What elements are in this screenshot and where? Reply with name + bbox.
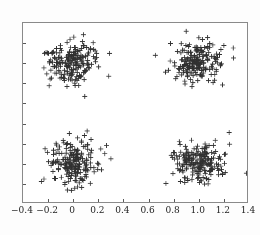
x-tick-label: 0.2 bbox=[90, 206, 104, 215]
x-tick-mark bbox=[98, 199, 99, 202]
x-tick-label: 1.4 bbox=[241, 206, 255, 215]
x-tick-label: 0.6 bbox=[140, 206, 154, 215]
x-tick-mark bbox=[174, 199, 175, 202]
x-tick-label: 1.0 bbox=[191, 206, 205, 215]
y-tick-mark bbox=[23, 164, 26, 165]
y-tick-mark bbox=[23, 124, 26, 125]
plot-frame bbox=[22, 22, 248, 203]
x-tick-label: −0.2 bbox=[36, 206, 58, 215]
y-tick-mark bbox=[23, 63, 26, 64]
x-tick-label: 0 bbox=[69, 206, 75, 215]
y-tick-mark bbox=[23, 43, 26, 44]
scatter-points-canvas bbox=[23, 23, 247, 202]
x-tick-mark bbox=[224, 199, 225, 202]
y-tick-mark bbox=[23, 144, 26, 145]
x-tick-label: −0.4 bbox=[11, 206, 33, 215]
x-tick-label: 0.4 bbox=[115, 206, 129, 215]
x-tick-label: 0.8 bbox=[165, 206, 179, 215]
x-tick-mark bbox=[73, 199, 74, 202]
x-tick-mark bbox=[199, 199, 200, 202]
y-tick-mark bbox=[23, 83, 26, 84]
y-tick-mark bbox=[23, 103, 26, 104]
x-tick-mark bbox=[48, 199, 49, 202]
scatter-plot-figure: −0.4−0.200.20.40.60.81.01.21.4 −0.4−0.20… bbox=[0, 0, 260, 235]
x-tick-mark bbox=[123, 199, 124, 202]
y-tick-mark bbox=[23, 184, 26, 185]
x-tick-mark bbox=[149, 199, 150, 202]
x-tick-label: 1.2 bbox=[216, 206, 230, 215]
